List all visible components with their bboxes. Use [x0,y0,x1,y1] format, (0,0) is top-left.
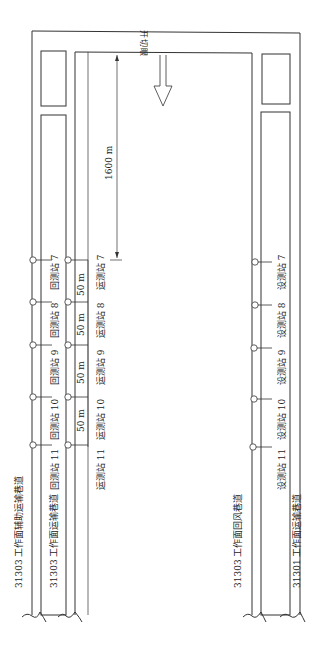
transport-station-9: 运测站 9 [96,349,106,385]
outer-frame [32,31,300,615]
spacing-label-4: 50 m [76,409,86,432]
roadway-label-right-outer: 31301 工作面运输巷道 [292,494,302,589]
break-1 [22,612,46,622]
design-station-11: 设测站 11 [277,449,287,490]
break-4 [280,612,305,622]
design-station-9: 设测站 9 [277,349,287,385]
spacing-label-2: 50 m [76,313,86,336]
transport-station-11: 运测站 11 [96,449,106,490]
distance-label: 1600 m [104,146,114,180]
return-station-11: 回测站 11 [50,449,60,490]
spacing-label-3: 50 m [76,361,86,384]
cut-char-3: 眼 [139,48,148,56]
transport-station-8: 运测站 8 [96,302,106,338]
return-station-9: 回测站 9 [50,349,60,385]
transport-station-7: 运测站 7 [96,254,106,290]
roadway-diagram [0,0,318,651]
design-station-8: 设测站 8 [277,302,287,338]
return-station-7: 回测站 7 [50,254,60,290]
transport-station-10: 运测站 10 [96,399,106,440]
pillar-left-top [41,51,66,106]
break-2 [58,612,82,622]
design-station-10: 设测站 10 [277,399,287,440]
roadway-label-left-inner: 31303 工作面运输巷道 [49,494,59,589]
pillar-right-top [262,54,290,104]
cut-inner-line [75,52,252,53]
cut-char-2: 切 [139,39,148,47]
design-station-7: 设测站 7 [277,254,287,290]
roadway-label-left-outer: 31303 工作面辅助运输巷道 [14,476,24,589]
spacing-label-1: 50 m [76,273,86,296]
advance-arrow-icon [154,55,172,106]
roadway-label-right-inner: 31303 工作面回风巷道 [233,494,243,589]
cut-char-1: 开 [139,30,148,38]
break-3 [243,612,266,622]
return-station-10: 回测站 10 [50,399,60,440]
return-station-8: 回测站 8 [50,302,60,338]
